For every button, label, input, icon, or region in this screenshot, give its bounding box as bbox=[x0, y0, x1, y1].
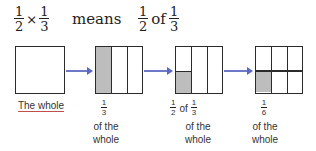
product-expression: 12 × 13 bbox=[14, 6, 49, 32]
third-cell bbox=[112, 47, 128, 93]
fraction-one-third: 13 bbox=[169, 5, 179, 33]
third-cell bbox=[192, 47, 208, 93]
arrow-icon bbox=[224, 70, 248, 72]
whole-box bbox=[15, 46, 65, 94]
half-of-third-box bbox=[175, 46, 223, 94]
caption-one-sixth-fraction: 16 bbox=[252, 99, 276, 117]
sixths-box bbox=[255, 46, 303, 94]
of-phrase: 12 of 13 bbox=[138, 6, 179, 32]
caption-the-whole: The whole bbox=[10, 99, 72, 112]
shaded-third bbox=[96, 47, 112, 93]
caption-one-third-fraction: 13 bbox=[92, 99, 116, 117]
times-sign: × bbox=[26, 12, 37, 27]
means-label: means bbox=[72, 6, 121, 32]
arrow-icon bbox=[66, 70, 88, 72]
shaded-sixth bbox=[256, 72, 271, 93]
title-row: 12 × 13 means 12 of 13 bbox=[0, 6, 316, 32]
arrow-icon bbox=[144, 70, 168, 72]
fraction-one-half: 12 bbox=[138, 5, 148, 33]
thirds-box bbox=[95, 46, 143, 94]
caption-half-of-third-fraction: 12 of 13 bbox=[170, 99, 214, 117]
fraction-one-third: 13 bbox=[39, 5, 49, 33]
fraction-one-half: 12 bbox=[14, 5, 24, 33]
shaded-half-third bbox=[176, 71, 191, 93]
caption-one-third-text: of the whole bbox=[84, 120, 128, 146]
caption-one-sixth-text: of the whole bbox=[243, 120, 287, 146]
caption-half-of-third-text: of the whole bbox=[176, 120, 220, 146]
